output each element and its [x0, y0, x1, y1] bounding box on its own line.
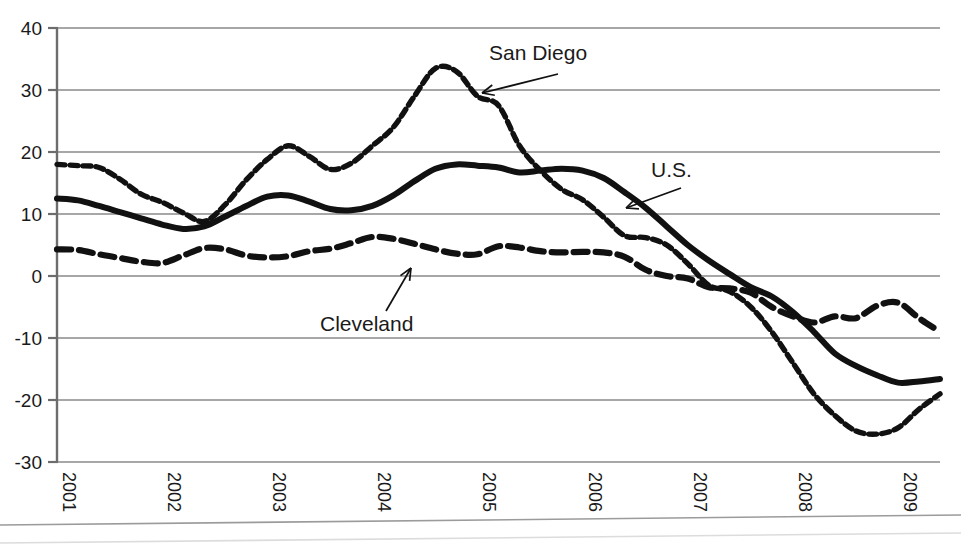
y-tick-label: 0	[31, 266, 42, 287]
y-tick-label: -30	[15, 452, 42, 473]
y-tick-label: -20	[15, 390, 42, 411]
y-tick-label: 20	[21, 142, 42, 163]
y-axis-group	[48, 28, 58, 462]
y-tick-label: 10	[21, 204, 42, 225]
annotation-arrow-cleveland	[386, 268, 411, 311]
x-tick-label: 2006	[585, 472, 605, 512]
y-tick-label: -10	[15, 328, 42, 349]
x-tick-labels-group: 200120022003200420052006200720082009	[59, 472, 920, 512]
y-tick-labels-group: 403020100-10-20-30	[15, 18, 42, 473]
x-tick-label: 2003	[269, 472, 289, 512]
x-tick-label: 2005	[479, 472, 499, 512]
y-tick-label: 40	[21, 18, 42, 39]
housing-price-chart: 403020100-10-20-30 200120022003200420052…	[0, 0, 961, 544]
annotation-arrowhead-san-diego	[482, 93, 495, 95]
annotation-label-u-s: U.S.	[651, 158, 692, 181]
series-group	[57, 66, 940, 434]
series-line-cleveland	[57, 237, 940, 332]
x-tick-label: 2002	[164, 472, 184, 512]
page-scan-edge	[0, 515, 961, 543]
annotation-label-cleveland: Cleveland	[320, 312, 413, 335]
annotation-arrowhead-u-s	[626, 208, 639, 209]
annotation-label-san-diego: San Diego	[489, 41, 587, 64]
y-tick-label: 30	[21, 80, 42, 101]
x-tick-label: 2007	[690, 472, 710, 512]
x-tick-label: 2004	[374, 472, 394, 512]
chart-canvas: 403020100-10-20-30 200120022003200420052…	[0, 0, 961, 544]
series-line-u-s	[57, 164, 940, 383]
x-tick-label: 2009	[900, 472, 920, 512]
annotations-group: San DiegoU.S.Cleveland	[320, 41, 692, 335]
x-tick-label: 2008	[795, 472, 815, 512]
x-tick-label: 2001	[59, 472, 79, 512]
